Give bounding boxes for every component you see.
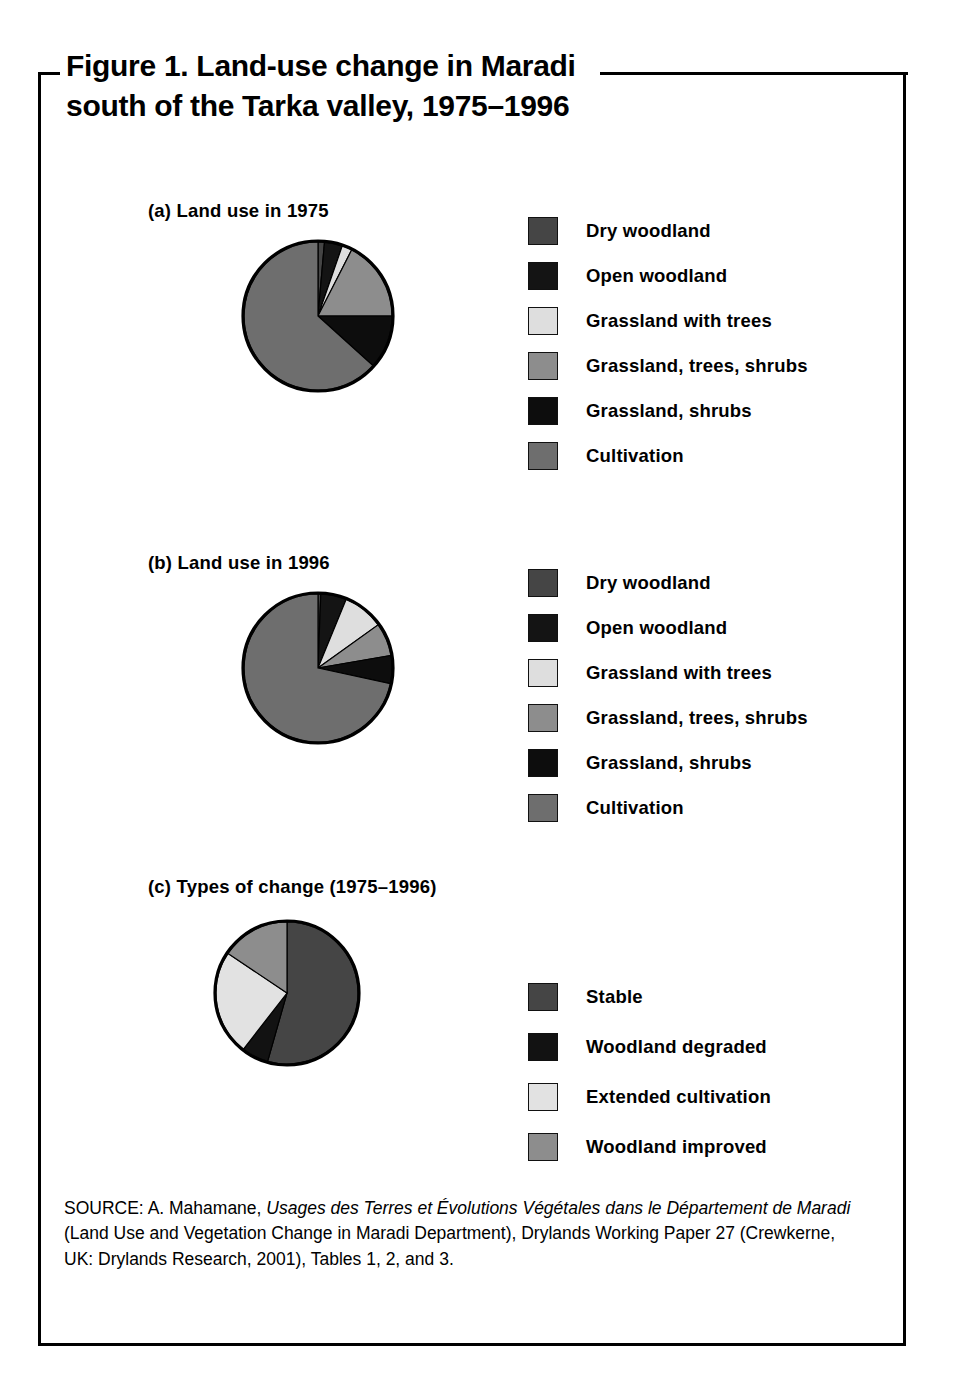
pie-b-slices [244,594,392,742]
legend-row: Open woodland [528,253,808,298]
panel-b-caption: (b) Land use in 1996 [148,552,330,574]
legend-row: Cultivation [528,433,808,478]
legend-label: Cultivation [586,797,684,819]
legend-swatch-icon [528,659,558,687]
legend-row: Dry woodland [528,208,808,253]
legend-row: Open woodland [528,605,808,650]
legend-row: Grassland, shrubs [528,388,808,433]
legend-swatch-icon [528,569,558,597]
legend-swatch-icon [528,397,558,425]
legend-swatch-icon [528,1083,558,1111]
source-note: SOURCE: A. Mahamane, Usages des Terres e… [64,1196,854,1272]
legend-row: Stable [528,972,771,1022]
legend-label: Open woodland [586,617,727,639]
legend-label: Stable [586,986,643,1008]
legend-label: Grassland, trees, shrubs [586,707,808,729]
legend-swatch-icon [528,307,558,335]
legend-label: Woodland degraded [586,1036,767,1058]
legend-label: Grassland with trees [586,310,772,332]
legend-label: Dry woodland [586,572,711,594]
panel-c-caption: (c) Types of change (1975–1996) [148,876,437,898]
legend-label: Grassland, trees, shrubs [586,355,808,377]
legend-row: Woodland improved [528,1122,771,1172]
legend-swatch-icon [528,217,558,245]
legend-swatch-icon [528,262,558,290]
legend-row: Grassland, trees, shrubs [528,343,808,388]
figure-title: Figure 1. Land-use change in Maradi sout… [66,46,606,126]
legend-label: Dry woodland [586,220,711,242]
legend-label: Grassland, shrubs [586,400,752,422]
legend-1975: Dry woodlandOpen woodlandGrassland with … [528,208,808,478]
legend-label: Grassland, shrubs [586,752,752,774]
source-suffix: (Land Use and Vegetation Change in Marad… [64,1223,835,1268]
legend-label: Cultivation [586,445,684,467]
legend-row: Grassland, trees, shrubs [528,695,808,740]
legend-label: Grassland with trees [586,662,772,684]
legend-label: Open woodland [586,265,727,287]
legend-row: Dry woodland [528,560,808,605]
legend-swatch-icon [528,794,558,822]
legend-swatch-icon [528,983,558,1011]
pie-c-svg [212,918,362,1068]
legend-swatch-icon [528,749,558,777]
legend-swatch-icon [528,1033,558,1061]
panel-a-caption: (a) Land use in 1975 [148,200,329,222]
pie-a-svg [240,238,396,394]
legend-types-of-change: StableWoodland degradedExtended cultivat… [528,972,771,1172]
legend-row: Grassland with trees [528,298,808,343]
legend-swatch-icon [528,442,558,470]
legend-swatch-icon [528,614,558,642]
pie-chart-types-of-change [212,918,362,1068]
legend-row: Grassland with trees [528,650,808,695]
legend-row: Woodland degraded [528,1022,771,1072]
pie-c-slices [216,922,358,1064]
legend-label: Extended cultivation [586,1086,771,1108]
source-title-italic: Usages des Terres et Évolutions Végétale… [266,1198,850,1218]
pie-b-svg [240,590,396,746]
legend-swatch-icon [528,1133,558,1161]
source-prefix: SOURCE: A. Mahamane, [64,1198,266,1218]
legend-row: Cultivation [528,785,808,830]
legend-swatch-icon [528,352,558,380]
legend-1996: Dry woodlandOpen woodlandGrassland with … [528,560,808,830]
legend-row: Grassland, shrubs [528,740,808,785]
pie-a-slices [244,242,392,390]
pie-chart-1996 [240,590,396,746]
pie-chart-1975 [240,238,396,394]
legend-swatch-icon [528,704,558,732]
legend-label: Woodland improved [586,1136,767,1158]
legend-row: Extended cultivation [528,1072,771,1122]
